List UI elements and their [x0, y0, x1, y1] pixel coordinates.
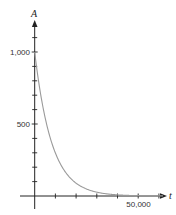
y-tick-label-500: 500 — [17, 120, 31, 129]
y-tick-label-1000: 1,000 — [10, 48, 31, 57]
x-tick-label-50000: 50,000 — [126, 200, 151, 209]
x-axis-label: t — [169, 190, 172, 201]
axes — [20, 20, 167, 209]
axis-ticks — [32, 38, 159, 199]
y-axis-label: A — [30, 8, 38, 19]
y-axis-arrow-icon — [32, 20, 38, 27]
decay-curve — [35, 52, 163, 196]
decay-chart: A t 1,000 500 50,000 — [0, 0, 176, 215]
